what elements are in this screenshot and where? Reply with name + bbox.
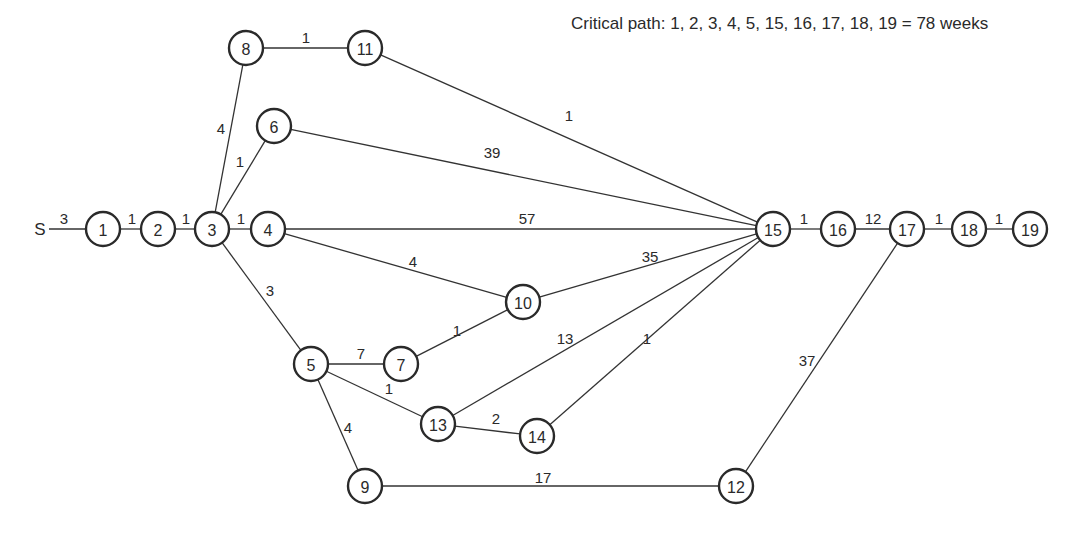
node-15: 15 [756,212,790,246]
edge-weight-label: 1 [385,380,393,397]
node-8: 8 [229,31,263,65]
node-3: 3 [195,212,229,246]
node-9: 9 [348,469,382,503]
edge-weight-label: 1 [643,330,651,347]
edge-weight-label: 13 [557,330,574,347]
node-16: 16 [821,212,855,246]
edge-3-8 [215,65,243,213]
node-label: 16 [829,222,847,239]
node-10: 10 [506,285,540,319]
node-label: 3 [208,222,217,239]
edge-3-5 [222,243,301,351]
edge-12-17 [745,243,897,472]
node-6: 6 [257,109,291,143]
edge-13-14 [455,426,520,434]
edge-weight-label: 2 [492,410,500,427]
node-label: 10 [514,295,532,312]
edge-weight-label: 1 [182,210,190,227]
node-label: 12 [727,479,745,496]
node-label: 18 [960,222,978,239]
edge-7-10 [416,310,508,357]
node-label: 4 [264,222,273,239]
edge-weight-label: 37 [799,352,816,369]
node-18: 18 [952,212,986,246]
edge-weight-label: 1 [995,210,1003,227]
network-diagram: 311141311395743571141321173711211 S 1234… [0,0,1090,534]
edge-weight-label: 3 [60,210,68,227]
edge-weight-label: 4 [217,120,225,137]
edge-weight-label: 1 [565,107,573,124]
node-7: 7 [384,347,418,381]
node-label: 8 [242,41,251,58]
node-label: 11 [357,41,374,58]
edge-weight-label: 1 [453,322,461,339]
node-2: 2 [141,212,175,246]
node-4: 4 [251,212,285,246]
node-label: 19 [1021,222,1039,239]
node-label: 14 [528,429,546,446]
node-label: 9 [361,479,370,496]
node-label: 2 [154,222,163,239]
start-layer: S [34,220,45,239]
edge-weight-label: 1 [935,210,943,227]
node-12: 12 [719,469,753,503]
node-5: 5 [294,347,328,381]
node-label: 6 [270,119,279,136]
edge-4-10 [284,234,506,298]
edge-weight-label: 1 [302,29,310,46]
node-label: 7 [397,357,406,374]
edge-weight-label: 7 [357,345,365,362]
edge-weight-label: 1 [128,210,136,227]
node-17: 17 [890,212,924,246]
edge-13-15 [453,238,759,416]
edge-weight-label: 39 [484,144,501,161]
edge-weight-label: 35 [642,248,659,265]
node-label: 5 [307,357,316,374]
edge-weight-label: 12 [865,210,882,227]
edge-weight-label: 3 [266,282,274,299]
edge-weight-label: 1 [237,210,245,227]
node-label: 13 [429,417,447,434]
edge-weight-label: 17 [535,469,552,486]
edge-14-15 [550,240,760,425]
node-11: 11 [348,31,382,65]
edge-weight-label: 1 [800,210,808,227]
edge-weight-label: 4 [344,419,352,436]
edge-3-6 [221,141,265,215]
start-label: S [34,220,45,239]
edge-weight-label: 57 [519,210,536,227]
edge-11-15 [381,55,758,222]
edge-10-15 [539,234,756,297]
node-14: 14 [520,419,554,453]
node-label: 1 [99,222,108,239]
edge-weight-label: 1 [236,153,244,170]
node-19: 19 [1013,212,1047,246]
node-1: 1 [86,212,120,246]
node-label: 15 [764,222,782,239]
nodes-layer: 12345678910111213141516171819 [86,31,1047,503]
node-13: 13 [421,407,455,441]
node-label: 17 [898,222,916,239]
edge-weight-label: 4 [409,253,417,270]
edge-labels-layer: 311141311395743571141321173711211 [60,29,1003,486]
